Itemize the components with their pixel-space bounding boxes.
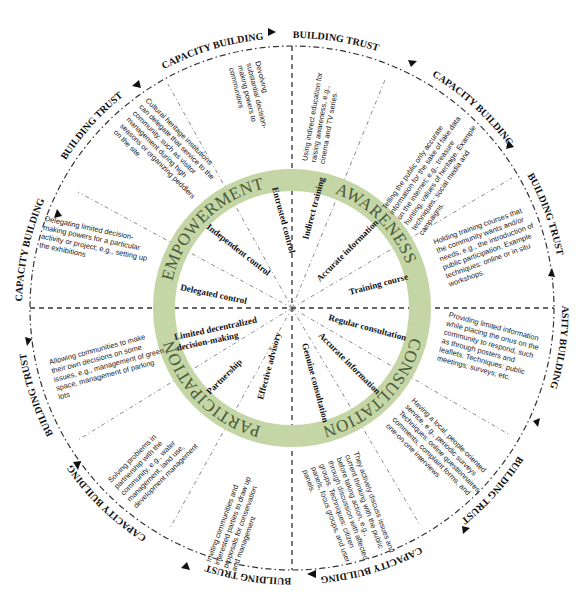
participation-wheel-diagram: AWARENESS EMPOWERMENT CONSULTATION PARTI… [0, 0, 582, 605]
cycle-label: CAPACITY BUILDING [320, 545, 424, 586]
cycle-label: CAPACITY BUILDING [64, 463, 148, 544]
cycle-label: CAPACITY BUILDING [13, 196, 46, 302]
radial-dividers [78, 80, 512, 528]
sub-level-independent-control: Independent control [205, 222, 273, 278]
arrow-icon [25, 337, 32, 346]
arrow-icon [268, 28, 276, 36]
cycle-label: BUILDING TRUST [459, 455, 526, 527]
sub-level-entrusted-control: Entrusted control [270, 186, 297, 255]
cycle-label: BUILDING TRUST [203, 563, 291, 587]
arrow-icon [462, 526, 470, 534]
arrow-icon [54, 209, 62, 218]
sub-level-regular-consultation: Regular consultation [327, 312, 407, 342]
sub-level-genuine-consultation: Genuine consultation [300, 342, 331, 424]
cycle-label: CAPASITY BUILDING [0, 0, 571, 391]
arrow-icon [307, 570, 316, 578]
arrow-icon [181, 562, 190, 570]
sub-level-effective-advisory: Effective advisory [255, 331, 283, 401]
sub-levels-consultation: Regular consultation Accurate informatio… [300, 312, 407, 423]
sub-levels-empowerment: Delegated control Independent control En… [180, 186, 298, 306]
sub-level-accurate-information: Accurate information [314, 217, 380, 283]
arrow-icon [408, 60, 417, 67]
outer-cycle-labels: BUILDING TRUST CAPACITY BUILDING BUILDIN… [0, 0, 571, 587]
sub-level-partnership: Partnership [204, 357, 244, 397]
arrow-icon [132, 80, 141, 88]
cycle-label: CAPACITY BUILDING [160, 30, 264, 71]
descriptions [0, 0, 1, 1]
cycle-label: BUILDING TRUST [58, 89, 125, 161]
sub-level-limited-decentralized: Limited decentralized decision-making [173, 314, 262, 353]
sub-level-accurate-information-2: Accurate information [317, 330, 383, 396]
sub-level-delegated-control: Delegated control [180, 282, 249, 306]
sub-level-training-course: Training course [348, 272, 409, 297]
arrow-icon [533, 418, 540, 427]
arrow-icon [548, 268, 555, 277]
cycle-label: CAPACITY BUILDING [431, 68, 516, 148]
